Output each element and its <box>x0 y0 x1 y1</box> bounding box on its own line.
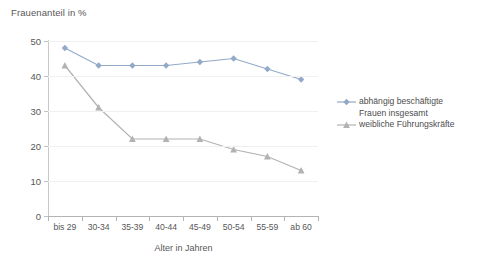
legend-item-label-continued: Frauen insgesamt <box>336 108 488 120</box>
x-axis-tick-mark <box>251 217 252 221</box>
plot-area <box>48 41 318 216</box>
x-axis-tick-label: ab 60 <box>290 222 312 232</box>
y-axis-tick-label: 20 <box>30 141 41 152</box>
chart-container: Frauenanteil in % 01020304050 bis 2930-3… <box>0 0 491 269</box>
y-axis-tick-mark <box>44 181 48 182</box>
data-point-marker <box>230 55 236 61</box>
data-point-marker <box>62 45 68 51</box>
gridline <box>48 76 318 77</box>
triangle-marker-icon <box>336 119 357 131</box>
diamond-marker-icon <box>336 96 357 108</box>
gridline <box>48 146 318 147</box>
series-polyline <box>65 48 301 80</box>
x-axis-tick-mark <box>149 217 150 221</box>
x-axis-tick-mark <box>116 217 117 221</box>
x-axis-title: Alter in Jahren <box>48 243 319 253</box>
data-point-marker <box>298 167 305 173</box>
data-point-marker <box>163 62 169 68</box>
data-point-marker <box>343 99 349 105</box>
x-axis-tick-label: 40-44 <box>155 222 177 232</box>
x-axis-tick-label: 50-54 <box>223 222 245 232</box>
y-axis-tick-label: 0 <box>36 211 41 222</box>
legend-item[interactable]: abhängig beschäftigte <box>336 96 488 108</box>
data-point-marker <box>95 62 101 68</box>
x-axis-tick-label: 55-59 <box>256 222 278 232</box>
data-point-marker <box>264 66 270 72</box>
series-group <box>62 45 305 83</box>
x-axis-tick-label: 45-49 <box>189 222 211 232</box>
data-point-marker <box>61 62 68 68</box>
legend-item[interactable]: weibliche Führungskräfte <box>336 119 488 131</box>
series-polyline <box>65 66 301 171</box>
y-axis-tick-label: 30 <box>30 106 41 117</box>
series-lines <box>48 41 318 216</box>
chart-legend: abhängig beschäftigteFrauen insgesamtwei… <box>336 96 488 131</box>
y-axis-tick-mark <box>44 76 48 77</box>
y-axis-tick-label: 50 <box>30 36 41 47</box>
gridline <box>48 41 318 42</box>
y-axis-tick-mark <box>44 111 48 112</box>
data-point-marker <box>197 59 203 65</box>
y-axis-labels: 01020304050 <box>0 0 41 269</box>
y-axis-tick-mark <box>44 41 48 42</box>
series-group <box>61 62 304 173</box>
data-point-marker <box>298 76 304 82</box>
x-axis-tick-mark <box>284 217 285 221</box>
gridline <box>48 181 318 182</box>
x-axis-labels: bis 2930-3435-3940-4445-4950-5455-59ab 6… <box>48 222 319 236</box>
x-axis-tick-mark <box>217 217 218 221</box>
legend-item-label: abhängig beschäftigte <box>359 96 443 106</box>
x-axis-tick-label: 30-34 <box>88 222 110 232</box>
x-axis-tick-mark <box>82 217 83 221</box>
x-axis-tick-mark <box>318 217 319 221</box>
x-axis-tick-label: bis 29 <box>53 222 76 232</box>
x-axis-tick-mark <box>48 217 49 221</box>
x-axis-tick-label: 35-39 <box>121 222 143 232</box>
data-point-marker <box>129 62 135 68</box>
y-axis-tick-mark <box>44 146 48 147</box>
y-axis-tick-label: 10 <box>30 176 41 187</box>
gridline <box>48 111 318 112</box>
y-axis-tick-label: 40 <box>30 71 41 82</box>
legend-item-label: weibliche Führungskräfte <box>359 119 455 129</box>
x-axis-tick-mark <box>183 217 184 221</box>
